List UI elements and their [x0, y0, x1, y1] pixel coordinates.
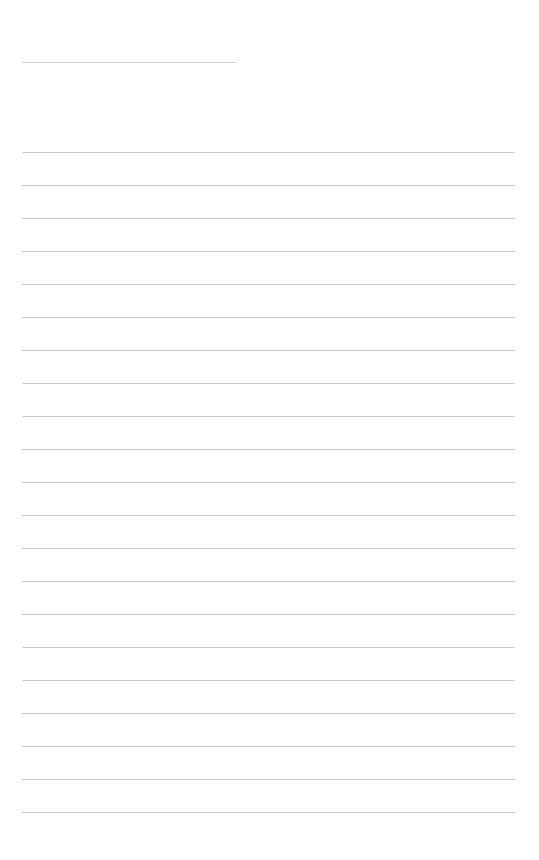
ruled-line	[22, 812, 515, 813]
ruled-line	[22, 383, 515, 384]
header-title-line	[22, 62, 236, 63]
ruled-line	[22, 482, 515, 483]
ruled-line	[22, 581, 515, 582]
ruled-line	[22, 779, 515, 780]
ruled-line	[22, 647, 515, 648]
ruled-line	[22, 284, 515, 285]
ruled-line	[22, 350, 515, 351]
ruled-line	[22, 317, 515, 318]
ruled-line	[22, 185, 515, 186]
ruled-line	[22, 713, 515, 714]
ruled-line	[22, 449, 515, 450]
ruled-line	[22, 218, 515, 219]
ruled-line	[22, 416, 515, 417]
ruled-line	[22, 251, 515, 252]
ruled-line	[22, 515, 515, 516]
ruled-line	[22, 614, 515, 615]
ruled-line	[22, 548, 515, 549]
ruled-line	[22, 746, 515, 747]
ruled-line	[22, 152, 515, 153]
ruled-line	[22, 680, 515, 681]
